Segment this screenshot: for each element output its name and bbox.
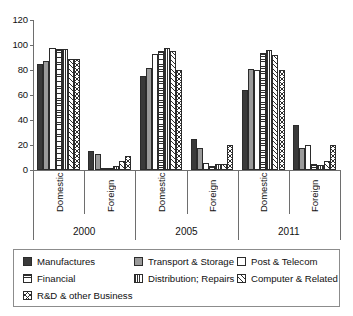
legend-label: R&D & other Business <box>37 290 132 301</box>
legend-swatch-icon <box>23 257 32 266</box>
legend-item[interactable]: Post & Telecom <box>237 256 317 267</box>
group-label: 2000 <box>33 226 135 237</box>
bar <box>74 59 80 170</box>
legend-label: Transport & Storage <box>148 256 234 267</box>
category-label: Domestic <box>54 174 65 212</box>
group-separator <box>340 170 341 240</box>
legend-label: Post & Telecom <box>251 256 317 267</box>
bar <box>176 70 182 170</box>
bar <box>330 145 336 170</box>
group-label: 2005 <box>135 226 237 237</box>
group-label: 2011 <box>238 226 340 237</box>
category-label: Foreign <box>105 174 116 212</box>
chart-root: 020406080100120 DomesticForeignDomesticF… <box>0 0 353 316</box>
legend-item[interactable]: Distribution; Repairs <box>134 273 234 284</box>
legend-swatch-icon <box>134 274 143 283</box>
category-label: Foreign <box>207 174 218 212</box>
legend-label: Distribution; Repairs <box>148 273 234 284</box>
plot-area: 020406080100120 DomesticForeignDomesticF… <box>0 0 353 250</box>
category-label: Domestic <box>258 174 269 212</box>
legend-swatch-icon <box>237 274 246 283</box>
legend-item[interactable]: Computer & Related <box>237 273 338 284</box>
bar <box>125 156 131 170</box>
legend-item[interactable]: Manufactures <box>23 256 95 267</box>
legend-swatch-icon <box>237 257 246 266</box>
category-label: Foreign <box>309 174 320 212</box>
legend-swatch-icon <box>134 257 143 266</box>
category-separator <box>289 170 290 214</box>
bar <box>227 145 233 170</box>
legend-item[interactable]: R&D & other Business <box>23 290 132 301</box>
category-separator <box>187 170 188 214</box>
legend-swatch-icon <box>23 274 32 283</box>
legend-item[interactable]: Transport & Storage <box>134 256 234 267</box>
category-label: Domestic <box>156 174 167 212</box>
legend-label: Manufactures <box>37 256 95 267</box>
category-separator <box>84 170 85 214</box>
chart-legend: ManufacturesTransport & StoragePost & Te… <box>13 249 340 307</box>
legend-label: Computer & Related <box>251 273 338 284</box>
bar <box>279 70 285 170</box>
legend-item[interactable]: Financial <box>23 273 75 284</box>
legend-swatch-icon <box>23 291 32 300</box>
legend-label: Financial <box>37 273 75 284</box>
bars-layer <box>0 0 353 170</box>
